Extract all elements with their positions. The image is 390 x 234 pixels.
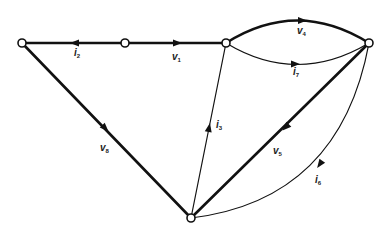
arrow-i6-icon xyxy=(314,159,325,170)
arrow-v4-icon xyxy=(298,17,307,24)
label-v1: v1 xyxy=(172,52,181,63)
arrow-i3-icon xyxy=(205,122,214,132)
edge-i7 xyxy=(226,43,369,65)
label-v5: v5 xyxy=(273,146,282,157)
node-c xyxy=(222,39,230,47)
label-v8: v8 xyxy=(100,143,109,154)
label-i6: i6 xyxy=(315,175,321,186)
label-i3: i3 xyxy=(216,120,222,131)
arrow-i2-icon xyxy=(70,40,79,47)
node-d xyxy=(365,39,373,47)
arrow-v1-icon xyxy=(173,40,182,47)
label-i7: i7 xyxy=(293,67,299,78)
circuit-graph xyxy=(0,0,390,234)
node-b xyxy=(121,39,129,47)
node-e xyxy=(187,214,195,222)
node-a xyxy=(18,39,26,47)
label-v4: v4 xyxy=(297,26,306,37)
label-i2: i2 xyxy=(74,48,80,59)
